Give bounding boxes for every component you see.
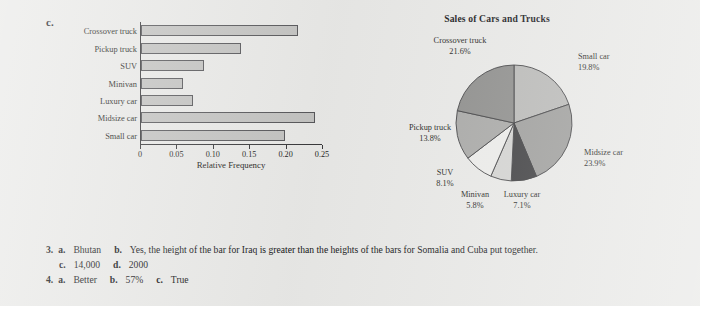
bar-chart-x-tick-label: 0	[138, 150, 142, 159]
bar-chart-category-label: Midsize car	[98, 113, 142, 124]
pie-slice-label-name: Midsize car	[584, 148, 623, 157]
pie-slice-label: SUV8.1%	[436, 168, 453, 189]
answer-3b-text: Yes, the height of the bar for Iraq is g…	[130, 244, 538, 255]
bar-chart-x-tick	[322, 145, 323, 149]
bar-chart-category-label: Crossover truck	[84, 26, 142, 37]
pie-slice-label-percent: 7.1%	[504, 201, 541, 212]
bar-chart-category-label: SUV	[120, 61, 142, 72]
pie-slice-label-percent: 21.6%	[434, 47, 487, 58]
bar-chart-x-tick	[213, 145, 214, 149]
answer-3d-text: 2000	[129, 259, 148, 270]
bar-chart-x-tick	[286, 145, 287, 149]
panel-c-letter: c.	[46, 16, 54, 28]
pie-slice-label-name: SUV	[437, 168, 454, 177]
answer-text-block: 3.a.Bhutanb.Yes, the height of the bar f…	[46, 242, 686, 287]
pie-slice-label: Pickup truck13.8%	[409, 123, 451, 144]
pie-slice-label: Crossover truck21.6%	[434, 36, 487, 57]
bar-chart-bar: Small car	[141, 130, 285, 141]
scanned-page: c. Crossover truckPickup truckSUVMinivan…	[0, 0, 700, 306]
bar-chart-bar: Luxury car	[141, 95, 193, 106]
answer-line-3c3d: c.14,000d.2000	[46, 257, 686, 272]
bar-chart-x-axis-title: Relative Frequency	[140, 160, 322, 170]
pie-slice-label: Luxury car7.1%	[504, 190, 541, 211]
panel-d-pie-chart: d. Sales of Cars and Trucks Small car19.…	[372, 0, 700, 215]
answer-3c-marker: c.	[59, 259, 66, 270]
bar-chart-bar: Minivan	[141, 78, 183, 89]
answer-3a-text: Bhutan	[73, 244, 101, 255]
bar-chart-bar: Pickup truck	[141, 43, 241, 54]
pie-slice-label-percent: 23.9%	[584, 159, 623, 170]
answer-3a-marker: a.	[58, 244, 65, 255]
answer-4c-marker: c.	[156, 274, 163, 285]
answer-4c-text: True	[171, 274, 189, 285]
pie-slice-label-name: Luxury car	[504, 190, 541, 199]
bar-chart-plot-area: Crossover truckPickup truckSUVMinivanLux…	[140, 22, 323, 144]
pie-slice-label-name: Crossover truck	[434, 36, 487, 45]
answer-4a-marker: a.	[58, 274, 65, 285]
answer-line-3a3b: 3.a.Bhutanb.Yes, the height of the bar f…	[46, 242, 686, 257]
pie-slice-label-name: Pickup truck	[409, 123, 451, 132]
bar-chart-x-tick-label: 0.05	[169, 150, 183, 159]
answer-line-4: 4.a.Betterb.57%c.True	[46, 272, 686, 287]
answer-4a-text: Better	[73, 274, 96, 285]
bar-chart-category-label: Luxury car	[100, 96, 142, 107]
bar-chart-category-label: Minivan	[109, 79, 142, 90]
pie-slice-label: Minivan5.8%	[461, 190, 489, 211]
bar-chart-bar: Crossover truck	[141, 25, 298, 36]
pie-slice-label-percent: 19.8%	[578, 63, 610, 74]
pie-slice-label-name: Minivan	[461, 190, 489, 199]
bar-chart-x-tick-label: 0.20	[278, 150, 292, 159]
pie-slice-label-percent: 5.8%	[461, 201, 489, 212]
bar-chart-category-label: Pickup truck	[94, 44, 142, 55]
pie-slice-label-name: Small car	[578, 52, 610, 61]
pie-slice-label: Small car19.8%	[578, 52, 610, 73]
answer-3d-marker: d.	[113, 259, 121, 270]
bar-chart-x-tick	[249, 145, 250, 149]
pie-chart-graphic	[372, 0, 700, 215]
answer-number-4: 4.	[46, 274, 53, 285]
bar-chart-x-tick-label: 0.25	[315, 150, 329, 159]
bar-chart-bar: SUV	[141, 60, 204, 71]
answer-number-3: 3.	[46, 244, 53, 255]
bar-chart-x-tick-label: 0.15	[242, 150, 256, 159]
pie-slice-label-percent: 13.8%	[409, 134, 451, 145]
answer-3b-marker: b.	[114, 244, 122, 255]
pie-slice-label: Midsize car23.9%	[584, 148, 623, 169]
bar-chart-x-tick-label: 0.10	[206, 150, 220, 159]
bar-chart-x-tick	[176, 145, 177, 149]
bar-chart-x-axis: 00.050.100.150.200.25	[140, 144, 322, 145]
answer-4b-marker: b.	[110, 274, 118, 285]
bar-chart-x-tick	[140, 145, 141, 149]
answer-3c-text: 14,000	[74, 259, 100, 270]
pie-slice-label-percent: 8.1%	[436, 179, 453, 190]
panel-c-bar-chart: c. Crossover truckPickup truckSUVMinivan…	[0, 0, 372, 200]
bar-chart-category-label: Small car	[105, 131, 142, 142]
bar-chart-bar: Midsize car	[141, 112, 315, 123]
answer-4b-text: 57%	[126, 274, 144, 285]
